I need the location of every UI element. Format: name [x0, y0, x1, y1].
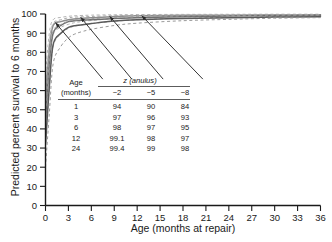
table-col-header: −8 [181, 88, 190, 97]
y-tick-label: 40 [26, 123, 37, 134]
curve-z-5-upper-bound [46, 14, 321, 94]
chart-figure: 0102030405060708090100 03691215182124273… [0, 0, 332, 242]
y-axis: 0102030405060708090100 [21, 8, 45, 211]
y-tick-label: 70 [26, 66, 37, 77]
survival-curve-chart: 0102030405060708090100 03691215182124273… [0, 0, 332, 242]
y-tick-label: 80 [26, 47, 37, 58]
inset-table: z (anulus) Age (months) −2−5−8 194908439… [58, 76, 190, 153]
y-tick-label: 60 [26, 85, 37, 96]
table-cell-value: 99.1 [110, 134, 125, 143]
table-cell-value: 93 [181, 113, 189, 122]
y-tick-label: 50 [26, 104, 37, 115]
table-column-headers: −2−5−8 [113, 88, 190, 97]
y-tick-label: 100 [21, 8, 37, 19]
y-tick-label: 10 [26, 181, 37, 192]
x-axis: 0369121518212427303336 [43, 206, 326, 224]
x-tick-label: 30 [269, 212, 280, 223]
x-tick-label: 36 [315, 212, 326, 223]
table-row-header-line2: (months) [61, 88, 91, 97]
table-cell-value: 96 [147, 113, 155, 122]
table-cell-age: 3 [74, 113, 78, 122]
y-tick-label: 0 [32, 200, 37, 211]
table-body: 1949084397969369897951299.198972499.4999… [72, 102, 189, 153]
table-cell-value: 98 [181, 144, 189, 153]
table-cell-value: 98 [147, 134, 155, 143]
table-cell-value: 94 [113, 102, 121, 111]
y-axis-title: Predicted percent survival to 6 months [9, 18, 21, 197]
table-cell-age: 1 [74, 102, 78, 111]
y-tick-label: 30 [26, 142, 37, 153]
arrow-3 [110, 16, 163, 79]
table-cell-age: 12 [72, 134, 80, 143]
y-tick-label: 90 [26, 28, 37, 39]
table-cell-age: 6 [74, 123, 78, 132]
table-cell-value: 98 [113, 123, 121, 132]
arrow-1 [55, 23, 102, 79]
table-cell-value: 99.4 [110, 144, 125, 153]
x-tick-label: 3 [66, 212, 71, 223]
x-ticks: 0369121518212427303336 [43, 206, 326, 224]
x-tick-label: 27 [246, 212, 257, 223]
table-cell-value: 97 [181, 134, 189, 143]
table-col-header: −5 [147, 88, 156, 97]
x-tick-label: 9 [112, 212, 117, 223]
table-cell-value: 99 [147, 144, 155, 153]
x-tick-label: 6 [89, 212, 94, 223]
table-cell-age: 24 [72, 144, 80, 153]
table-cell-value: 84 [181, 102, 189, 111]
x-tick-label: 33 [292, 212, 303, 223]
table-row-header-line1: Age [69, 78, 83, 87]
x-axis-title: Age (months at repair) [131, 222, 235, 234]
table-col-header: −2 [113, 88, 122, 97]
table-group-header: z (anulus) [122, 76, 157, 85]
table-cell-value: 97 [147, 123, 155, 132]
y-tick-label: 20 [26, 162, 37, 173]
x-tick-label: 0 [43, 212, 48, 223]
arrow-4 [142, 16, 203, 79]
y-ticks: 0102030405060708090100 [21, 8, 45, 211]
table-cell-value: 95 [181, 123, 189, 132]
table-cell-value: 90 [147, 102, 155, 111]
table-cell-value: 97 [113, 113, 121, 122]
